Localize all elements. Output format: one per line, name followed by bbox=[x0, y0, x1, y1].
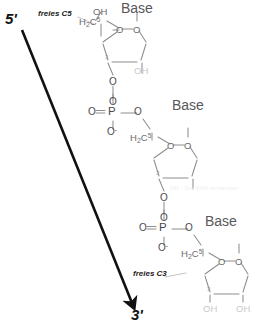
ring-number-c3-top: 3 bbox=[105, 54, 108, 60]
o-atom: O bbox=[158, 242, 166, 253]
phosphate-lower-ester-oxygen: O bbox=[185, 222, 193, 233]
ring-oxygen-top: O bbox=[116, 24, 123, 35]
ring-oxygen-middle: O bbox=[167, 140, 174, 151]
c-prime: 5 bbox=[148, 132, 152, 139]
watermark-text: OH - Die RNA vorhanden bbox=[170, 185, 238, 191]
h-atom: H bbox=[130, 132, 137, 143]
h-atom: H bbox=[79, 16, 86, 27]
bonds-phosphate-lower bbox=[147, 202, 188, 245]
c-atom: C bbox=[192, 248, 199, 259]
ring-number-c3-middle: 3 bbox=[156, 170, 159, 176]
base-oxygen-top: O bbox=[133, 24, 140, 35]
base-oxygen-middle: O bbox=[184, 140, 191, 151]
base-label-middle: Base bbox=[172, 97, 204, 113]
base-label-top: Base bbox=[121, 0, 153, 16]
phosphate-upper-anionic-oxygen: O- bbox=[107, 126, 117, 137]
ring-oxygen-bottom: O bbox=[218, 256, 225, 267]
c3-oxygen-middle: O bbox=[160, 192, 168, 203]
negative-charge: - bbox=[166, 242, 168, 249]
c3-oxygen-top: O bbox=[109, 76, 117, 87]
c3-hydroxyl-bottom: OH bbox=[203, 303, 217, 314]
carbon5-group-bottom: H2C5 bbox=[181, 248, 202, 260]
phosphorus-upper: P bbox=[108, 105, 116, 117]
free-c5-annotation: freies C5 bbox=[38, 9, 72, 18]
c-atom: C bbox=[90, 16, 97, 27]
five-prime-label: 5' bbox=[5, 10, 17, 27]
five-to-three-direction-arrow bbox=[22, 30, 132, 303]
carbon5-group-top: H2C5 bbox=[79, 16, 100, 28]
three-prime-label: 3' bbox=[131, 306, 143, 323]
dna-backbone-structure bbox=[0, 0, 257, 331]
c2-hydroxyl-bottom: OH bbox=[236, 303, 250, 314]
free-c3-annotation: freies C3 bbox=[133, 269, 167, 278]
c-prime: 5 bbox=[97, 16, 101, 23]
bonds-nucleotide-bottom bbox=[194, 235, 248, 302]
negative-charge: - bbox=[115, 126, 117, 133]
base-oxygen-bottom: O bbox=[235, 256, 242, 267]
diagram-canvas: 5' 3' freies C5 freies C3 Base Base Base… bbox=[0, 0, 257, 331]
c-atom: C bbox=[141, 132, 148, 143]
phosphate-lower-double-bond-oxygen: O bbox=[139, 222, 147, 233]
c-prime: 5 bbox=[199, 248, 203, 255]
ring-number-c3-bottom: 3 bbox=[207, 286, 210, 292]
phosphorus-lower: P bbox=[159, 221, 167, 233]
carbon5-group-middle: H2C5 bbox=[130, 132, 151, 144]
base-label-bottom: Base bbox=[205, 213, 237, 229]
h-atom: H bbox=[181, 248, 188, 259]
phosphate-upper-ester-oxygen: O bbox=[134, 106, 142, 117]
phosphate-lower-anionic-oxygen: O- bbox=[158, 242, 168, 253]
c2-hydroxyl-top: OH bbox=[134, 65, 148, 76]
bonds-nucleotide-middle bbox=[143, 119, 197, 191]
bonds-phosphate-upper bbox=[96, 86, 137, 129]
o-atom: O bbox=[107, 126, 115, 137]
phosphate-upper-double-bond-oxygen: O bbox=[88, 106, 96, 117]
